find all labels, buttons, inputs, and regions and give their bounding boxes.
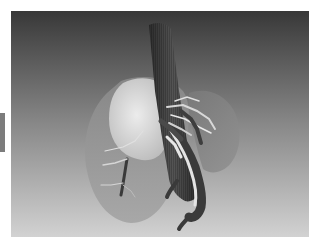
side-panel-tab[interactable]: [0, 113, 5, 152]
liver-render: [11, 11, 309, 237]
3d-viewport[interactable]: [11, 11, 309, 237]
